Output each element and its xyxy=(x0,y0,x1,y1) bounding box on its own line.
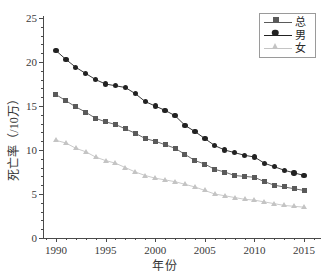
x-tick-mark xyxy=(304,238,305,242)
data-point xyxy=(262,179,267,184)
y-tick-label: 15 xyxy=(26,101,37,112)
x-tick-mark xyxy=(106,238,107,242)
data-point xyxy=(272,183,277,188)
x-tick-mark xyxy=(125,238,126,240)
data-point xyxy=(143,136,148,141)
data-point xyxy=(302,188,307,193)
data-point xyxy=(93,154,99,159)
data-point xyxy=(93,116,98,121)
data-point xyxy=(291,203,297,208)
legend-item-女[interactable]: 女 xyxy=(263,42,312,55)
x-tick-mark xyxy=(195,238,196,240)
data-point xyxy=(222,193,228,198)
legend-marker-icon xyxy=(273,17,279,23)
x-tick-mark xyxy=(245,238,246,240)
data-point xyxy=(172,179,178,184)
data-point xyxy=(163,142,168,147)
x-tick-label: 1995 xyxy=(95,245,117,256)
legend-marker-icon xyxy=(272,30,279,37)
x-axis-title: 年份 xyxy=(0,256,329,274)
series-line-女 xyxy=(56,140,304,207)
data-point xyxy=(202,136,207,141)
x-tick-mark xyxy=(284,238,285,240)
data-point xyxy=(182,123,187,128)
data-point xyxy=(251,197,257,202)
data-point xyxy=(282,184,287,189)
x-tick-mark xyxy=(96,238,97,240)
data-point xyxy=(63,57,68,62)
data-point xyxy=(252,154,257,159)
data-point xyxy=(53,92,58,97)
data-point xyxy=(162,177,168,182)
x-tick-mark xyxy=(225,238,226,240)
data-point xyxy=(142,173,148,178)
data-point xyxy=(53,137,59,142)
data-point xyxy=(291,170,296,175)
data-point xyxy=(202,162,207,167)
legend-marker-icon xyxy=(272,43,278,49)
data-point xyxy=(53,48,58,53)
x-tick-mark xyxy=(165,238,166,240)
data-point xyxy=(192,184,198,189)
data-point xyxy=(83,149,89,154)
data-point xyxy=(222,170,227,175)
legend-swatch xyxy=(263,29,293,42)
x-tick-mark xyxy=(155,238,156,242)
legend-swatch xyxy=(263,16,293,29)
data-point xyxy=(152,175,158,180)
x-tick-mark xyxy=(66,238,67,240)
legend-label: 女 xyxy=(293,42,306,55)
data-point xyxy=(242,174,247,179)
data-point xyxy=(73,104,78,109)
data-point xyxy=(202,187,208,192)
data-point xyxy=(212,191,218,196)
data-point xyxy=(271,201,277,206)
data-point xyxy=(262,161,267,166)
x-tick-mark xyxy=(56,238,57,242)
data-point xyxy=(132,169,138,174)
data-point xyxy=(103,81,108,86)
data-point xyxy=(192,158,197,163)
data-point xyxy=(212,167,217,172)
x-tick-label: 2015 xyxy=(293,245,315,256)
legend-item-男[interactable]: 男 xyxy=(263,29,312,42)
y-tick-label: 5 xyxy=(32,189,38,200)
data-point xyxy=(281,202,287,207)
x-tick-mark xyxy=(215,238,216,240)
data-point xyxy=(282,168,287,173)
data-point xyxy=(63,98,68,103)
x-tick-mark xyxy=(264,238,265,240)
data-point xyxy=(292,186,297,191)
data-point xyxy=(162,108,167,113)
data-point xyxy=(153,103,158,108)
legend-label: 总 xyxy=(293,16,306,29)
data-point xyxy=(173,146,178,151)
data-point xyxy=(182,181,188,186)
y-tick-label: 10 xyxy=(26,145,37,156)
y-axis-ticks: 0510152025 xyxy=(0,0,43,277)
data-point xyxy=(112,160,118,165)
x-tick-mark xyxy=(115,238,116,240)
data-point xyxy=(133,131,138,136)
x-tick-mark xyxy=(76,238,77,240)
data-point xyxy=(261,199,267,204)
data-point xyxy=(232,173,237,178)
legend-line xyxy=(264,48,292,49)
data-point xyxy=(113,122,118,127)
x-tick-mark xyxy=(185,238,186,240)
legend[interactable]: 总男女 xyxy=(259,13,316,58)
data-point xyxy=(83,110,88,115)
data-point xyxy=(103,119,108,124)
x-tick-mark xyxy=(235,238,236,240)
data-point xyxy=(103,158,109,163)
x-tick-mark xyxy=(175,238,176,240)
x-tick-mark xyxy=(274,238,275,240)
data-point xyxy=(182,152,187,157)
x-tick-mark xyxy=(205,238,206,242)
legend-swatch xyxy=(263,42,293,55)
data-point xyxy=(232,195,238,200)
legend-item-总[interactable]: 总 xyxy=(263,16,312,29)
x-tick-mark xyxy=(145,238,146,240)
x-tick-mark xyxy=(254,238,255,242)
data-point xyxy=(73,145,79,150)
